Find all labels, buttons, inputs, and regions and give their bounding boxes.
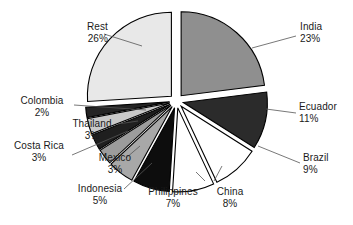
- slice-label-china-name: China: [209, 186, 251, 198]
- slice-label-brazil-name: Brazil: [303, 152, 349, 164]
- slice-label-india-name: India: [300, 21, 350, 33]
- slice-label-colombia-name: Colombia: [11, 95, 73, 107]
- slice-label-thailand-name: Thailand: [65, 118, 119, 130]
- slice-label-costa-rica: Costa Rica 3%: [6, 140, 72, 163]
- slice-label-china-value: 8%: [209, 198, 251, 210]
- slice-label-mexico-value: 3%: [91, 164, 139, 176]
- slice-label-mexico: Mexico 3%: [91, 152, 139, 175]
- slice-label-indonesia: Indonesia 5%: [70, 183, 130, 206]
- pie-chart: Rest 26% India 23% Ecuador 11% Brazil 9%…: [0, 0, 353, 225]
- slice-label-costa-rica-value: 3%: [6, 152, 72, 164]
- slice-label-ecuador-name: Ecuador: [299, 101, 353, 113]
- slice-label-indonesia-value: 5%: [70, 195, 130, 207]
- slice-label-colombia-value: 2%: [11, 107, 73, 119]
- slice-label-ecuador: Ecuador 11%: [299, 101, 353, 124]
- leader-line: [266, 109, 296, 113]
- slice-label-india-value: 23%: [300, 33, 350, 45]
- slice-label-india: India 23%: [300, 21, 350, 44]
- slice-label-philippines: Philippines 7%: [142, 186, 204, 209]
- pie-slice-india: [181, 12, 264, 96]
- slice-label-thailand-value: 3%: [65, 130, 119, 142]
- slice-label-rest-value: 26%: [52, 33, 108, 45]
- slice-label-indonesia-name: Indonesia: [70, 183, 130, 195]
- slice-label-thailand: Thailand 3%: [65, 118, 119, 141]
- slice-label-mexico-name: Mexico: [91, 152, 139, 164]
- slice-label-china: China 8%: [209, 186, 251, 209]
- slice-label-rest: Rest 26%: [52, 21, 108, 44]
- slice-label-ecuador-value: 11%: [299, 113, 353, 125]
- slice-label-colombia: Colombia 2%: [11, 95, 73, 118]
- slice-label-rest-name: Rest: [52, 21, 108, 33]
- leader-line: [258, 146, 300, 163]
- slice-label-brazil: Brazil 9%: [303, 152, 349, 175]
- leader-line: [252, 36, 296, 48]
- slice-label-brazil-value: 9%: [303, 164, 349, 176]
- slice-label-costa-rica-name: Costa Rica: [6, 140, 72, 152]
- slice-label-philippines-name: Philippines: [142, 186, 204, 198]
- slice-label-philippines-value: 7%: [142, 198, 204, 210]
